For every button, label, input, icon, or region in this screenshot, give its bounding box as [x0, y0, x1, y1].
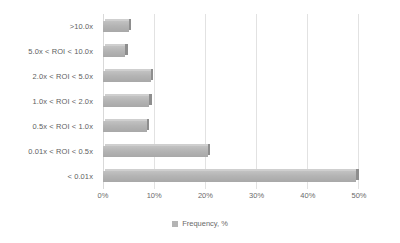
value-axis-tick: 50% [351, 191, 366, 200]
bar-slot [103, 164, 359, 189]
bar [103, 146, 208, 157]
chart-legend: Frequency, % [0, 219, 400, 228]
category-label: < 0.01x [0, 164, 99, 189]
bar-slot [103, 39, 359, 64]
plot-area [103, 14, 359, 189]
value-axis-tick: 40% [300, 191, 315, 200]
category-label: 2.0x < ROI < 5.0x [0, 64, 99, 89]
bar [103, 46, 125, 57]
bar-slot [103, 14, 359, 39]
category-label: 0.5x < ROI < 1.0x [0, 114, 99, 139]
category-label: 1.0x < ROI < 2.0x [0, 89, 99, 114]
category-label: >10.0x [0, 14, 99, 39]
bar-chart: >10.0x 5.0x < ROI < 10.0x 2.0x < ROI < 5… [0, 0, 400, 243]
value-axis-tick: 30% [249, 191, 264, 200]
bar-series [103, 14, 359, 189]
legend-swatch-icon [172, 221, 178, 227]
value-axis-labels: 0% 10% 20% 30% 40% 50% [103, 191, 359, 205]
legend-label: Frequency, % [182, 219, 228, 228]
bar-slot [103, 139, 359, 164]
bar [103, 71, 151, 82]
bar-slot [103, 64, 359, 89]
bar [103, 121, 147, 132]
value-axis-tick: 10% [147, 191, 162, 200]
category-label: 5.0x < ROI < 10.0x [0, 39, 99, 64]
category-axis-labels: >10.0x 5.0x < ROI < 10.0x 2.0x < ROI < 5… [0, 14, 99, 189]
category-label: 0.01x < ROI < 0.5x [0, 139, 99, 164]
value-axis-tick: 0% [98, 191, 109, 200]
bar-slot [103, 89, 359, 114]
bar [103, 96, 149, 107]
bar-slot [103, 114, 359, 139]
bar [103, 21, 129, 32]
bar [103, 171, 356, 182]
value-axis-tick: 20% [198, 191, 213, 200]
